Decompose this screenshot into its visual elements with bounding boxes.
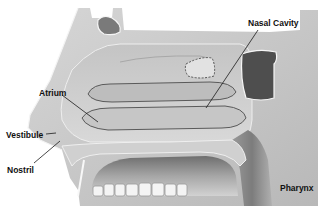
label-nasal-cavity: Nasal Cavity xyxy=(248,19,299,28)
nasal-cavity-region xyxy=(61,44,252,142)
teeth xyxy=(93,183,187,196)
label-vestibule: Vestibule xyxy=(6,131,43,140)
label-pharynx: Pharynx xyxy=(280,184,314,193)
label-nostril: Nostril xyxy=(7,166,34,175)
sphenoid-sinus xyxy=(242,50,277,100)
label-atrium: Atrium xyxy=(39,89,66,98)
anatomy-illustration xyxy=(0,0,320,206)
